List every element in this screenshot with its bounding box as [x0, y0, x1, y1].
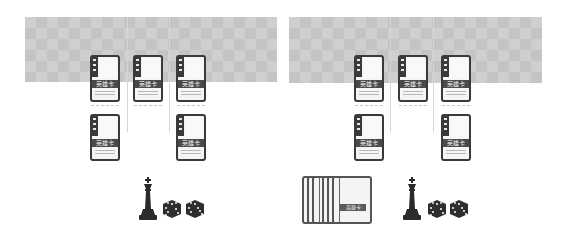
hero-card[interactable]: 英雄卡 — [441, 114, 471, 161]
king-piece-icon[interactable] — [402, 177, 422, 221]
lane-divider — [390, 17, 391, 132]
card-deck[interactable]: 英雄卡 — [302, 176, 372, 224]
card-label: 英雄卡 — [400, 80, 426, 88]
card-text — [403, 91, 423, 97]
card-text — [359, 91, 379, 97]
stat-column — [356, 57, 362, 77]
hero-card[interactable]: 英雄卡 — [441, 55, 471, 102]
card-label: 英雄卡 — [443, 80, 469, 88]
card-text — [446, 150, 466, 156]
slot-separator — [399, 105, 427, 107]
die-icon[interactable] — [427, 199, 447, 219]
card-text — [359, 150, 379, 156]
card-art — [363, 117, 381, 137]
deck-card-edge — [314, 178, 320, 222]
hero-card[interactable]: 英雄卡 — [354, 114, 384, 161]
card-art — [363, 58, 381, 78]
stat-column — [356, 116, 362, 136]
card-label: 英雄卡 — [443, 139, 469, 147]
stat-column — [443, 57, 449, 77]
die-icon[interactable] — [449, 199, 469, 219]
card-label: 英雄卡 — [356, 80, 382, 88]
stat-column — [443, 116, 449, 136]
right-board: 英雄卡 英雄卡 英雄卡 英雄卡 英雄卡 英雄卡 — [0, 0, 565, 237]
hero-card[interactable]: 英雄卡 — [354, 55, 384, 102]
deck-card-label: 英雄卡 — [340, 204, 366, 211]
slot-separator — [355, 105, 383, 107]
hero-card[interactable]: 英雄卡 — [398, 55, 428, 102]
card-art — [450, 58, 468, 78]
lane-divider — [433, 17, 434, 132]
card-label: 英雄卡 — [356, 139, 382, 147]
deck-card-edge — [334, 178, 340, 222]
deck-card-top: 英雄卡 — [332, 176, 372, 224]
stat-column — [400, 57, 406, 77]
slot-separator — [442, 105, 470, 107]
card-art — [407, 58, 425, 78]
card-text — [446, 91, 466, 97]
card-art — [450, 117, 468, 137]
